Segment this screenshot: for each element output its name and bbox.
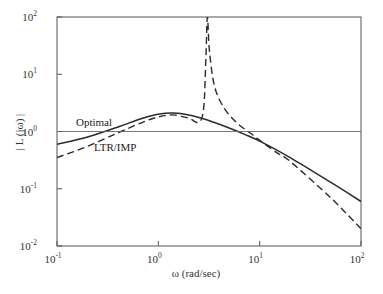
y-tick-label: 10-2 xyxy=(20,238,37,252)
x-tick-label: 101 xyxy=(248,251,263,265)
x-tick-label: 10-1 xyxy=(44,251,61,265)
y-axis-title: | L (jω) | xyxy=(13,114,26,151)
axis-tick-labels: 10-110010110210-210-1100101102 xyxy=(20,9,365,265)
y-tick-label: 102 xyxy=(22,9,37,23)
y-tick-label: 101 xyxy=(22,66,37,80)
y-tick-label: 10-1 xyxy=(20,181,37,195)
x-tick-label: 102 xyxy=(350,251,365,265)
annotation-optimal: Optimal xyxy=(76,116,112,128)
x-tick-label: 100 xyxy=(147,251,162,265)
annotation-ltr-imp: LTR/IMP xyxy=(94,141,136,153)
bode-magnitude-chart: 10-110010110210-210-1100101102 Optimal L… xyxy=(0,0,383,294)
x-axis-title: ω (rad/sec) xyxy=(172,267,221,280)
